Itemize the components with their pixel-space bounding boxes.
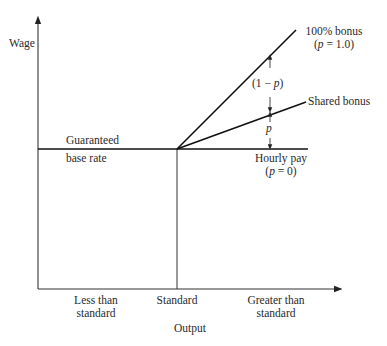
x-tick-greater-line1: Greater than <box>236 294 316 307</box>
x-axis-label: Output <box>160 322 220 335</box>
gap-lower-label: p <box>266 122 272 135</box>
shared-bonus-label: Shared bonus <box>308 95 370 108</box>
x-tick-less: Less than standard <box>66 294 126 320</box>
hourly-pay-param: (p = 0) <box>240 165 322 178</box>
hourly-pay-name: Hourly pay <box>240 152 322 165</box>
full-bonus-label: 100% bonus (p = 1.0) <box>298 25 370 51</box>
full-bonus-param: (p = 1.0) <box>298 38 370 51</box>
y-axis-label: Wage <box>9 37 35 50</box>
gap-upper-label: (1 − p) <box>252 77 283 90</box>
base-rate-label-line2: base rate <box>66 152 107 165</box>
shared-bonus-line <box>177 102 306 149</box>
x-tick-less-line1: Less than <box>66 294 126 307</box>
x-tick-standard: Standard <box>147 294 207 307</box>
full-bonus-name: 100% bonus <box>298 25 370 38</box>
hourly-pay-label: Hourly pay (p = 0) <box>240 152 322 178</box>
x-tick-less-line2: standard <box>66 307 126 320</box>
base-rate-label-line1: Guaranteed <box>66 134 119 147</box>
x-tick-greater: Greater than standard <box>236 294 316 320</box>
x-tick-greater-line2: standard <box>236 307 316 320</box>
